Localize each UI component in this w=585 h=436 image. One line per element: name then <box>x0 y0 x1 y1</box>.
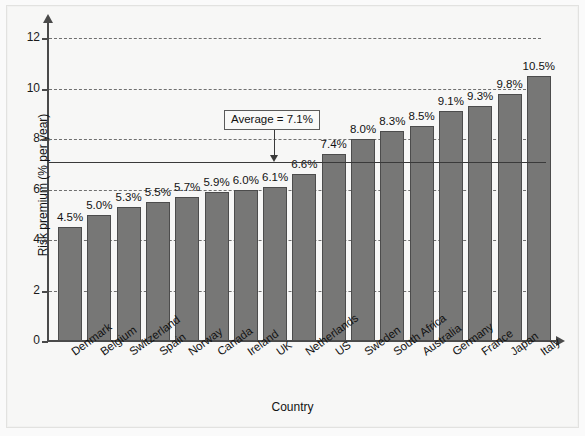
bar[interactable] <box>117 207 141 341</box>
bar-value-label: 9.3% <box>455 90 505 102</box>
bar[interactable] <box>410 126 434 341</box>
y-axis-arrow-icon <box>43 14 53 23</box>
bar-value-label: 7.4% <box>309 138 359 150</box>
bar-value-label: 4.5% <box>45 211 95 223</box>
y-tick-mark-10 <box>42 89 48 91</box>
bar-value-label: 6.1% <box>250 171 300 183</box>
y-tick-label: 2 <box>14 283 40 297</box>
y-tick-mark-8 <box>42 139 48 141</box>
bar-value-label: 10.5% <box>514 60 564 72</box>
y-tick-label: 4 <box>14 232 40 246</box>
average-reference-line <box>49 162 546 163</box>
bar-value-label: 6.6% <box>279 158 329 170</box>
y-tick-label: 12 <box>14 30 40 44</box>
bar[interactable] <box>234 190 258 342</box>
gridline-8 <box>49 139 541 140</box>
y-tick-mark-6 <box>42 190 48 192</box>
y-tick-mark-12 <box>42 38 48 40</box>
average-callout-arrow-icon <box>270 155 278 162</box>
bar[interactable] <box>263 187 287 341</box>
y-tick-label: 10 <box>14 81 40 95</box>
bar-value-label: 9.8% <box>485 78 535 90</box>
average-callout-stem <box>274 129 275 156</box>
bar[interactable] <box>439 111 463 341</box>
bar[interactable] <box>468 106 492 341</box>
bar[interactable] <box>292 174 316 341</box>
average-callout-label: Average = 7.1% <box>224 110 320 130</box>
bar[interactable] <box>205 192 229 341</box>
bar[interactable] <box>58 227 82 341</box>
y-tick-mark-4 <box>42 240 48 242</box>
plot-area: Risk premium (% per year) Country 024681… <box>0 0 585 436</box>
y-tick-label: 0 <box>14 333 40 347</box>
y-tick-mark-2 <box>42 291 48 293</box>
y-tick-mark-0 <box>42 341 48 343</box>
bar[interactable] <box>351 139 375 341</box>
bar[interactable] <box>380 131 404 341</box>
bar[interactable] <box>322 154 346 341</box>
chart-page: Risk premium (% per year) Country 024681… <box>0 0 585 436</box>
bar[interactable] <box>527 76 551 341</box>
y-tick-label: 6 <box>14 182 40 196</box>
y-tick-label: 8 <box>14 131 40 145</box>
x-axis-title: Country <box>0 400 585 414</box>
bar[interactable] <box>498 94 522 341</box>
bar-value-label: 8.5% <box>397 110 447 122</box>
gridline-12 <box>49 38 541 39</box>
